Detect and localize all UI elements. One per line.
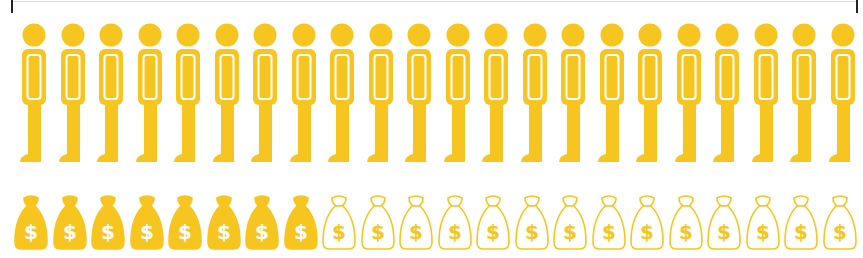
person-icon <box>711 22 743 164</box>
person-icon <box>57 22 89 164</box>
money-bag-outline-icon: $ <box>783 194 819 252</box>
money-bag-filled-icon: $ <box>52 194 88 252</box>
money-bag-outline-icon: $ <box>552 194 588 252</box>
person-icon <box>211 22 243 164</box>
bracket-tick-left <box>11 0 13 13</box>
money-bag-outline-icon: $ <box>745 194 781 252</box>
money-bag-outline-icon: $ <box>437 194 473 252</box>
person-icon <box>827 22 859 164</box>
person-icon <box>596 22 628 164</box>
person-icon <box>326 22 358 164</box>
svg-text:$: $ <box>756 220 770 244</box>
svg-text:$: $ <box>717 220 731 244</box>
person-icon <box>557 22 589 164</box>
person-icon <box>403 22 435 164</box>
bracket-line <box>12 1 858 2</box>
person-icon <box>788 22 820 164</box>
person-icon <box>519 22 551 164</box>
svg-text:$: $ <box>833 220 847 244</box>
person-icon <box>95 22 127 164</box>
money-bag-filled-icon: $ <box>90 194 126 252</box>
svg-text:$: $ <box>255 220 269 244</box>
svg-text:$: $ <box>63 220 77 244</box>
money-bag-outline-icon: $ <box>398 194 434 252</box>
person-icon <box>172 22 204 164</box>
money-bag-filled-icon: $ <box>129 194 165 252</box>
person-icon <box>480 22 512 164</box>
money-bag-outline-icon: $ <box>591 194 627 252</box>
person-icon <box>249 22 281 164</box>
svg-text:$: $ <box>178 220 192 244</box>
money-bag-filled-icon: $ <box>167 194 203 252</box>
svg-text:$: $ <box>101 220 115 244</box>
money-bag-outline-icon: $ <box>475 194 511 252</box>
svg-text:$: $ <box>371 220 385 244</box>
person-icon <box>288 22 320 164</box>
person-icon <box>134 22 166 164</box>
svg-text:$: $ <box>448 220 462 244</box>
svg-text:$: $ <box>563 220 577 244</box>
money-bag-filled-icon: $ <box>283 194 319 252</box>
svg-text:$: $ <box>794 220 808 244</box>
person-icon <box>634 22 666 164</box>
svg-text:$: $ <box>217 220 231 244</box>
money-bag-outline-icon: $ <box>321 194 357 252</box>
money-bag-outline-icon: $ <box>822 194 858 252</box>
svg-text:$: $ <box>486 220 500 244</box>
svg-text:$: $ <box>602 220 616 244</box>
svg-text:$: $ <box>140 220 154 244</box>
money-bag-filled-icon: $ <box>13 194 49 252</box>
person-icon <box>673 22 705 164</box>
person-icon <box>442 22 474 164</box>
money-bags-row: $$$$$$$$$$$$$$$$$$$$$$ <box>0 194 863 254</box>
money-bag-outline-icon: $ <box>668 194 704 252</box>
money-bag-outline-icon: $ <box>629 194 665 252</box>
svg-text:$: $ <box>294 220 308 244</box>
person-icon <box>750 22 782 164</box>
people-row <box>0 22 863 167</box>
money-bag-outline-icon: $ <box>706 194 742 252</box>
money-bag-outline-icon: $ <box>360 194 396 252</box>
bracket-tick-right <box>856 0 858 13</box>
svg-text:$: $ <box>409 220 423 244</box>
svg-text:$: $ <box>640 220 654 244</box>
money-bag-outline-icon: $ <box>514 194 550 252</box>
person-icon <box>18 22 50 164</box>
money-bag-filled-icon: $ <box>206 194 242 252</box>
svg-text:$: $ <box>24 220 38 244</box>
svg-text:$: $ <box>332 220 346 244</box>
svg-text:$: $ <box>679 220 693 244</box>
money-bag-filled-icon: $ <box>244 194 280 252</box>
svg-text:$: $ <box>525 220 539 244</box>
person-icon <box>365 22 397 164</box>
